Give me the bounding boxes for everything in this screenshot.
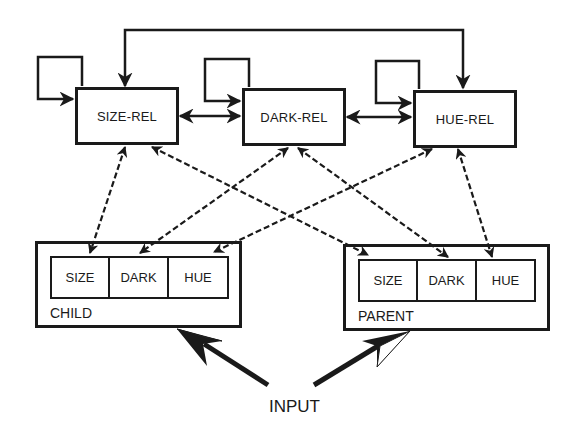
node-label: DARK-REL — [260, 110, 327, 125]
child-cell-hue: HUE — [167, 256, 229, 299]
input-arrow-parent — [314, 331, 410, 385]
dashed-dark-rel-child-dark — [140, 148, 288, 253]
dashed-hue-rel-child-hue — [214, 149, 432, 252]
parent-label: PARENT — [358, 308, 414, 324]
node-size-rel: SIZE-REL — [75, 87, 179, 145]
cell-label: DARK — [120, 270, 156, 285]
parent-cell-hue: HUE — [475, 259, 536, 302]
node-label: HUE-REL — [436, 112, 494, 127]
cell-label: SIZE — [374, 273, 403, 288]
cell-label: HUE — [184, 270, 211, 285]
node-label: SIZE-REL — [97, 109, 157, 124]
parent-cell-size: SIZE — [358, 259, 418, 302]
child-cell-size: SIZE — [50, 256, 110, 299]
node-dark-rel: DARK-REL — [242, 88, 346, 146]
node-hue-rel: HUE-REL — [413, 90, 517, 148]
top-link-size-hue — [125, 30, 463, 88]
dashed-dark-rel-parent-dark — [298, 148, 448, 257]
dashed-size-rel-parent-size — [152, 147, 368, 255]
connections-layer — [0, 0, 579, 435]
input-arrow-child — [177, 329, 268, 385]
cell-label: SIZE — [66, 270, 95, 285]
cell-label: DARK — [428, 273, 464, 288]
input-label: INPUT — [269, 397, 320, 417]
dashed-size-rel-child-size — [90, 147, 125, 253]
child-cell-dark: DARK — [108, 256, 169, 299]
cell-label: HUE — [492, 273, 519, 288]
child-label: CHILD — [50, 305, 92, 321]
dashed-hue-rel-parent-hue — [458, 149, 492, 257]
parent-cell-dark: DARK — [416, 259, 477, 302]
